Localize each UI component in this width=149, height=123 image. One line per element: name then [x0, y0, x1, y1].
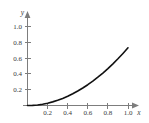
y-axis-tick-labels: 1.0 0.8 0.6 0.4 0.2	[13, 23, 22, 94]
x-tick-label-2: 0.4	[63, 109, 72, 117]
y-tick-label-5: 1.0	[13, 23, 22, 31]
x-tick-label-4: 0.8	[104, 109, 113, 117]
y-axis-arrow-icon	[25, 11, 31, 18]
y-axis-label: y	[20, 8, 25, 17]
x-tick-label-5: 1.0	[124, 109, 133, 117]
y-tick-label-3: 0.6	[13, 55, 22, 63]
plot-area: 1.0 0.8 0.6 0.4 0.2 0.2 0.4 0.6 0.8 1.0 …	[0, 0, 149, 123]
y-tick-label-2: 0.4	[13, 70, 22, 78]
x-axis-tick-labels: 0.2 0.4 0.6 0.8 1.0	[43, 109, 133, 117]
y-tick-label-4: 0.8	[13, 39, 22, 47]
x-tick-label-1: 0.2	[43, 109, 52, 117]
y-tick-label-1: 0.2	[13, 86, 22, 94]
chart-figure: 1.0 0.8 0.6 0.4 0.2 0.2 0.4 0.6 0.8 1.0 …	[0, 0, 149, 123]
x-axis-label: x	[136, 108, 141, 117]
data-curve	[28, 48, 129, 106]
x-tick-label-3: 0.6	[83, 109, 92, 117]
